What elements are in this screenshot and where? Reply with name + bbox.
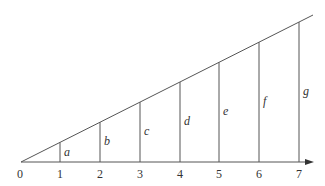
tick-6: 6 <box>256 167 262 181</box>
tick-1: 1 <box>57 167 63 181</box>
tick-5: 5 <box>216 167 222 181</box>
tick-3: 3 <box>137 167 143 181</box>
tick-7: 7 <box>296 167 302 181</box>
tick-4: 4 <box>177 167 183 181</box>
triangle-diagram: a b c d e f g 0 1 2 3 4 5 6 7 <box>0 0 325 186</box>
tick-2: 2 <box>97 167 103 181</box>
hypotenuse-line <box>21 15 313 162</box>
label-e: e <box>223 104 229 118</box>
label-d: d <box>184 114 191 128</box>
label-b: b <box>104 134 110 148</box>
label-g: g <box>303 84 309 98</box>
label-f: f <box>263 94 268 108</box>
tick-0: 0 <box>17 167 23 181</box>
axis-arrow-icon <box>305 159 314 165</box>
label-c: c <box>144 124 150 138</box>
label-a: a <box>64 145 70 159</box>
